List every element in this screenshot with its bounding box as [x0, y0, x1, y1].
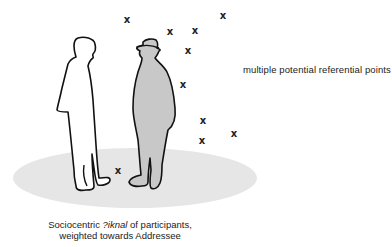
figure-caption: Sociocentric ?iknal of participants, wei… — [0, 219, 240, 241]
illustration — [0, 0, 392, 247]
referential-point-mark: x — [185, 46, 191, 56]
referential-point-mark: x — [220, 11, 226, 21]
referential-point-mark: x — [200, 116, 206, 126]
referential-point-mark: x — [180, 80, 186, 90]
referential-point-mark: x — [192, 26, 198, 36]
referential-point-mark: x — [115, 166, 121, 176]
referential-point-mark: x — [124, 15, 130, 25]
caption-suffix: of participants, — [127, 219, 191, 230]
caption-line-1: Sociocentric ?iknal of participants, — [0, 219, 240, 230]
diagram-canvas: x x x x x x x x x x multiple potential r… — [0, 0, 392, 247]
caption-prefix: Sociocentric — [48, 219, 102, 230]
referential-point-mark: x — [199, 136, 205, 146]
referential-point-mark: x — [231, 129, 237, 139]
caption-line-2: weighted towards Addressee — [0, 230, 240, 241]
caption-italic-term: ?iknal — [103, 219, 128, 230]
referential-point-mark: x — [167, 27, 173, 37]
referential-points-label: multiple potential referential points — [243, 64, 391, 75]
